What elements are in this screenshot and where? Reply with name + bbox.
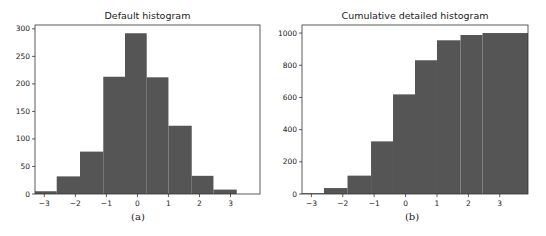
- y-tick-label: 50: [20, 162, 30, 171]
- y-tick-label: 1000: [278, 29, 297, 38]
- histogram-bar: [324, 188, 348, 194]
- histogram-bar: [192, 176, 214, 194]
- chart-title: Cumulative detailed histogram: [342, 10, 489, 21]
- figure: −3−2−10123050100150200250300Default hist…: [0, 0, 546, 236]
- histogram-bar: [415, 60, 437, 194]
- x-tick-label: 2: [197, 199, 202, 208]
- histogram-bar: [213, 190, 236, 194]
- histogram-bar: [35, 191, 57, 194]
- histogram-bar: [147, 77, 169, 194]
- y-tick-label: 150: [16, 107, 31, 116]
- chart-panel-2: −3−2−1012302004006008001000Cumulative de…: [278, 10, 528, 222]
- y-tick-label: 0: [292, 190, 297, 199]
- chart-panel-1: −3−2−10123050100150200250300Default hist…: [16, 10, 260, 222]
- y-tick-label: 200: [283, 157, 298, 166]
- x-tick-label: −1: [369, 199, 380, 208]
- histogram-bar: [80, 152, 103, 194]
- x-tick-label: −2: [337, 199, 348, 208]
- histogram-bar: [482, 33, 528, 194]
- y-tick-label: 0: [25, 190, 30, 199]
- x-tick-label: 1: [166, 199, 171, 208]
- x-tick-label: −1: [101, 199, 112, 208]
- x-tick-label: −3: [39, 199, 50, 208]
- y-tick-label: 200: [16, 79, 31, 88]
- x-tick-label: 0: [403, 199, 408, 208]
- y-tick-label: 800: [283, 61, 298, 70]
- histogram-bar: [437, 40, 461, 194]
- histogram-bar: [57, 176, 80, 194]
- y-tick-label: 600: [283, 93, 298, 102]
- y-tick-label: 400: [283, 125, 298, 134]
- chart-title: Default histogram: [105, 10, 191, 21]
- x-tick-label: 2: [466, 199, 471, 208]
- histogram-bar: [461, 35, 483, 194]
- chart-caption: (b): [405, 211, 419, 222]
- y-tick-label: 100: [16, 134, 31, 143]
- x-tick-label: 0: [135, 199, 140, 208]
- histogram-bar: [348, 176, 372, 194]
- x-tick-label: 1: [435, 199, 440, 208]
- chart-caption: (a): [131, 211, 145, 222]
- y-tick-label: 300: [16, 24, 31, 33]
- x-tick-label: −3: [306, 199, 317, 208]
- histogram-bar: [125, 33, 147, 194]
- histogram-bar: [371, 141, 393, 194]
- histogram-bar: [103, 77, 125, 194]
- histogram-bar: [393, 94, 415, 194]
- histogram-bar: [168, 126, 191, 194]
- y-tick-label: 250: [16, 52, 31, 61]
- x-tick-label: 3: [228, 199, 233, 208]
- x-tick-label: −2: [70, 199, 81, 208]
- histogram-figure: −3−2−10123050100150200250300Default hist…: [0, 0, 546, 236]
- x-tick-label: 3: [497, 199, 502, 208]
